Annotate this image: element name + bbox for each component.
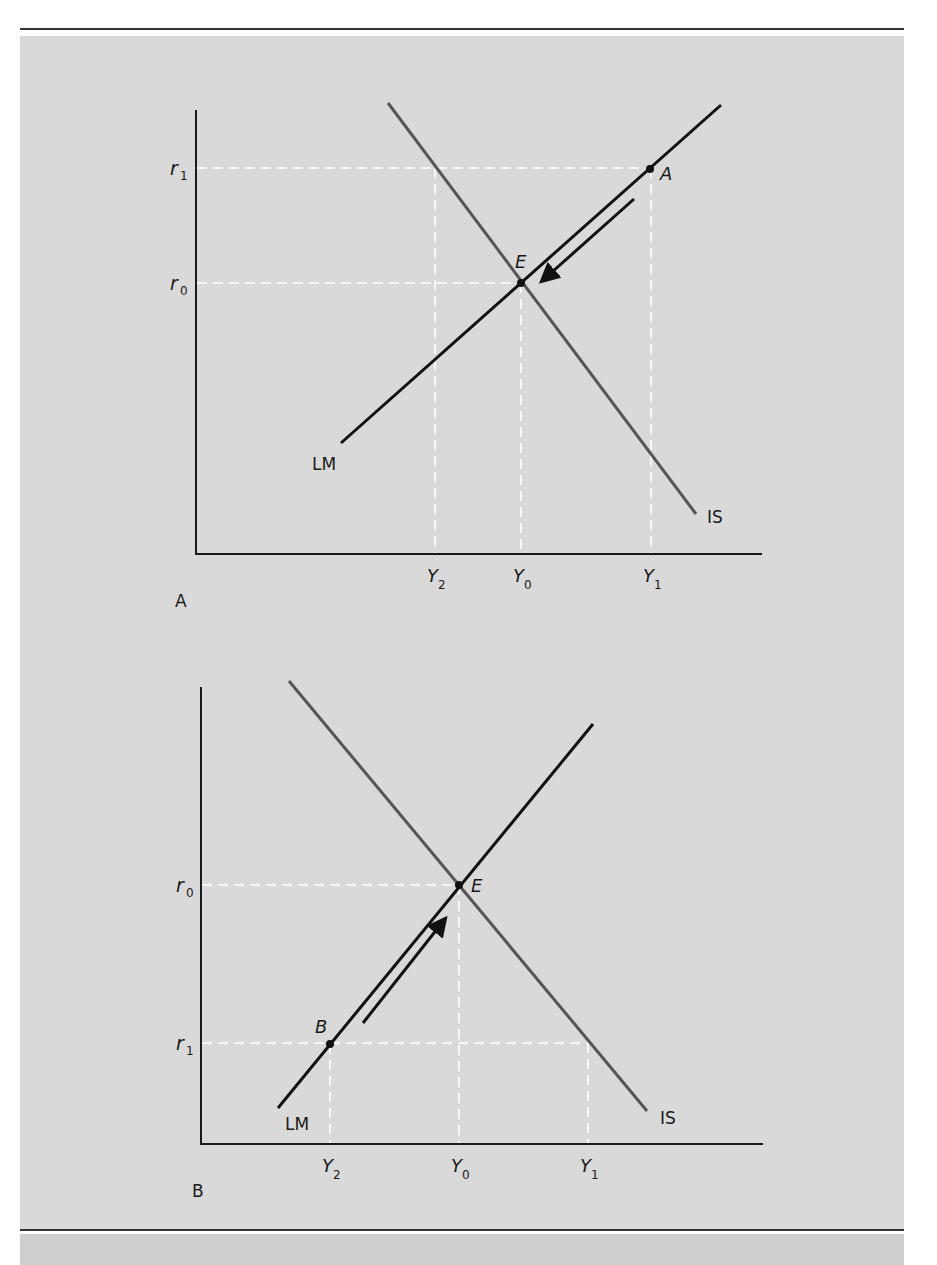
svg-text:1: 1 <box>186 1044 194 1058</box>
figure-page: E A LM IS A r 1 r 0 Y 2 Y 0 Y 1 <box>0 0 937 1265</box>
label-point-a: A <box>659 163 672 184</box>
svg-text:1: 1 <box>654 578 662 592</box>
svg-text:r: r <box>170 272 179 294</box>
svg-text:2: 2 <box>438 578 446 592</box>
svg-text:0: 0 <box>180 284 188 298</box>
svg-text:1: 1 <box>591 1168 599 1182</box>
svg-text:0: 0 <box>186 886 194 900</box>
label-is-b: IS <box>660 1108 676 1128</box>
svg-text:1: 1 <box>180 169 188 183</box>
point-e-a <box>517 279 525 287</box>
label-e-a: E <box>515 251 527 272</box>
figure-background <box>20 36 904 1231</box>
svg-text:r: r <box>170 157 179 179</box>
svg-text:r: r <box>176 874 185 896</box>
label-lm-a: LM <box>312 454 336 474</box>
svg-text:0: 0 <box>524 578 532 592</box>
label-lm-b: LM <box>285 1114 309 1134</box>
label-e-b: E <box>471 875 483 896</box>
point-b <box>326 1040 334 1048</box>
point-e-b <box>455 881 463 889</box>
svg-text:2: 2 <box>333 1168 341 1182</box>
svg-text:0: 0 <box>462 1168 470 1182</box>
panel-label-b: B <box>192 1181 204 1201</box>
panel-label-a: A <box>175 591 187 611</box>
label-point-b: B <box>315 1016 327 1037</box>
point-a <box>646 165 654 173</box>
label-is-a: IS <box>707 507 723 527</box>
is-lm-diagram: E A LM IS A r 1 r 0 Y 2 Y 0 Y 1 <box>0 0 937 1265</box>
svg-text:r: r <box>176 1032 185 1054</box>
